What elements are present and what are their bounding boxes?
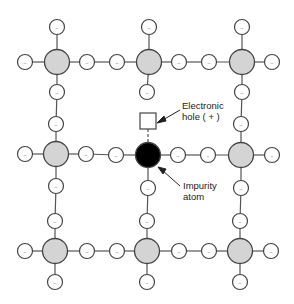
svg-text:−: − [115,60,119,66]
svg-text:−: − [54,184,58,190]
svg-text:−: − [23,249,27,255]
electron: − [80,244,95,259]
svg-text:−: − [115,249,119,255]
electron: − [18,147,33,162]
electron: − [201,148,216,163]
svg-text:−: − [177,60,181,66]
svg-text:−: − [177,249,181,255]
impurity-label-line1: Impurity [183,180,217,191]
svg-text:−: − [114,153,118,159]
electron: − [141,181,156,196]
electron: − [202,244,217,259]
svg-text:−: − [53,219,57,225]
svg-text:−: − [207,249,211,255]
impurity-label-line2: atom [183,191,217,202]
host-atom [45,50,70,75]
svg-text:−: − [147,25,151,31]
svg-text:−: − [239,122,243,128]
electron: − [18,55,33,70]
electron: − [48,275,63,290]
host-atom [135,239,160,264]
electron: − [110,55,125,70]
hole-label-line1: Electronic [182,100,224,111]
electron: − [80,55,95,70]
host-atom [137,50,162,75]
electron: − [48,214,63,229]
electron: − [49,179,64,194]
electron: − [140,85,155,100]
electron: − [79,147,94,162]
svg-text:−: − [238,219,242,225]
svg-text:−: − [145,219,149,225]
electron: − [172,55,187,70]
hole-label: Electronic hole ( + ) [182,100,224,122]
svg-text:−: − [238,280,242,286]
svg-text:−: − [270,153,274,159]
electron: − [172,244,187,259]
svg-text:−: − [85,249,89,255]
host-atom [230,50,255,75]
impurity-atom [136,143,161,168]
hole-label-line2: hole ( + ) [182,111,224,122]
electron: − [235,85,250,100]
electron: − [234,117,249,132]
svg-text:−: − [55,90,59,96]
svg-text:−: − [85,60,89,66]
electron: − [110,244,125,259]
electron: − [140,275,155,290]
electron: − [18,244,33,259]
electron: − [265,148,280,163]
svg-text:−: − [53,280,57,286]
svg-text:−: − [145,280,149,286]
electron: − [264,244,279,259]
electron: − [49,117,64,132]
electron: − [109,148,124,163]
host-atom [229,143,254,168]
svg-text:−: − [176,153,180,159]
electron: − [233,214,248,229]
svg-text:−: − [207,60,211,66]
host-atom [44,142,69,167]
electron: − [235,20,250,35]
host-atom [43,239,68,264]
atoms-layer [43,50,255,264]
crystal-lattice-diagram: −−−−−−−−−−−−−−−−−−−−−−−−−−−−−−−−−−− [0,0,294,304]
svg-text:−: − [84,152,88,158]
svg-text:−: − [240,25,244,31]
svg-text:−: − [239,186,243,192]
svg-text:−: − [240,90,244,96]
electron: − [202,55,217,70]
svg-text:−: − [270,60,274,66]
svg-text:−: − [23,152,27,158]
impurity-label: Impurity atom [183,180,217,202]
electron: − [265,55,280,70]
electron: − [140,214,155,229]
electron: − [171,148,186,163]
electron: − [142,20,157,35]
svg-text:−: − [146,186,150,192]
svg-text:−: − [54,122,58,128]
electronic-hole [140,113,156,129]
electron: − [234,181,249,196]
svg-text:−: − [269,249,273,255]
host-atom [228,239,253,264]
electron: − [233,275,248,290]
svg-text:−: − [55,25,59,31]
svg-text:−: − [206,153,210,159]
electron: − [50,85,65,100]
svg-text:−: − [145,90,149,96]
svg-text:−: − [23,60,27,66]
electron: − [50,20,65,35]
